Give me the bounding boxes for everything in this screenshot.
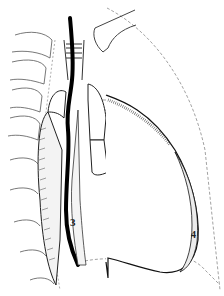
pleural-strip-3 (71, 110, 86, 265)
left-lung-upper (48, 91, 66, 118)
ascending-segment (90, 140, 108, 175)
right-vessel (88, 84, 106, 140)
clavicle (94, 10, 136, 52)
label-3: 3 (70, 216, 76, 228)
diagram-svg (0, 0, 224, 296)
anatomical-diagram: 3 4 (0, 0, 224, 296)
heart-outline (106, 95, 198, 278)
label-4: 4 (191, 229, 196, 240)
left-body-hatched (38, 112, 62, 285)
